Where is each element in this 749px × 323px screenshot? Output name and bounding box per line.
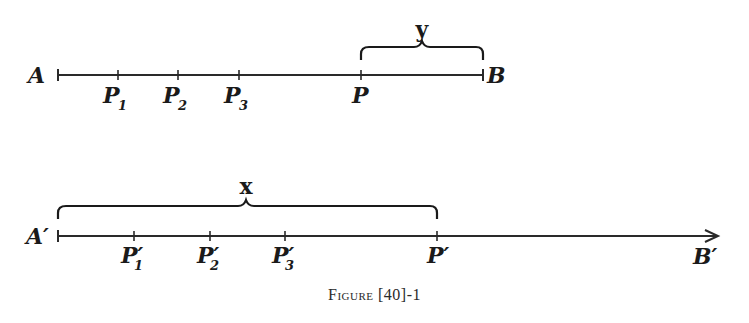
label-p: P xyxy=(351,82,370,108)
label-p1: P 1 xyxy=(102,82,127,113)
svg-text:1: 1 xyxy=(118,98,127,113)
brace-y xyxy=(361,41,483,60)
brace-x xyxy=(58,200,437,219)
label-p3-prime: P′ 3 xyxy=(271,242,295,273)
svg-text:2: 2 xyxy=(177,98,187,113)
svg-text:2: 2 xyxy=(209,258,219,273)
label-p3: P 3 xyxy=(223,82,248,113)
label-y: y xyxy=(415,16,430,42)
svg-text:3: 3 xyxy=(239,98,248,113)
svg-text:3: 3 xyxy=(285,258,294,273)
label-p2: P 2 xyxy=(162,82,187,113)
label-a-prime: A′ xyxy=(24,223,49,249)
label-p1-prime: P′ 1 xyxy=(120,242,144,273)
figure-caption: Figure [40]-1 xyxy=(0,286,749,304)
label-p2-prime: P′ 2 xyxy=(196,242,220,273)
label-b-prime: B′ xyxy=(692,243,718,269)
label-a: A xyxy=(26,62,45,88)
bottom-ray-ab-prime xyxy=(58,230,718,242)
caption-word: Figure xyxy=(328,286,374,303)
svg-text:1: 1 xyxy=(134,258,143,273)
label-p-prime: P′ xyxy=(426,242,450,268)
label-x: x xyxy=(239,173,253,199)
caption-number: [40]-1 xyxy=(378,286,421,303)
top-segment-ab xyxy=(58,69,483,81)
figure-diagram: A B P 1 P 2 P 3 P y A′ B′ P′ 1 P′ 2 P′ 3… xyxy=(0,0,749,323)
label-b: B xyxy=(486,62,506,88)
